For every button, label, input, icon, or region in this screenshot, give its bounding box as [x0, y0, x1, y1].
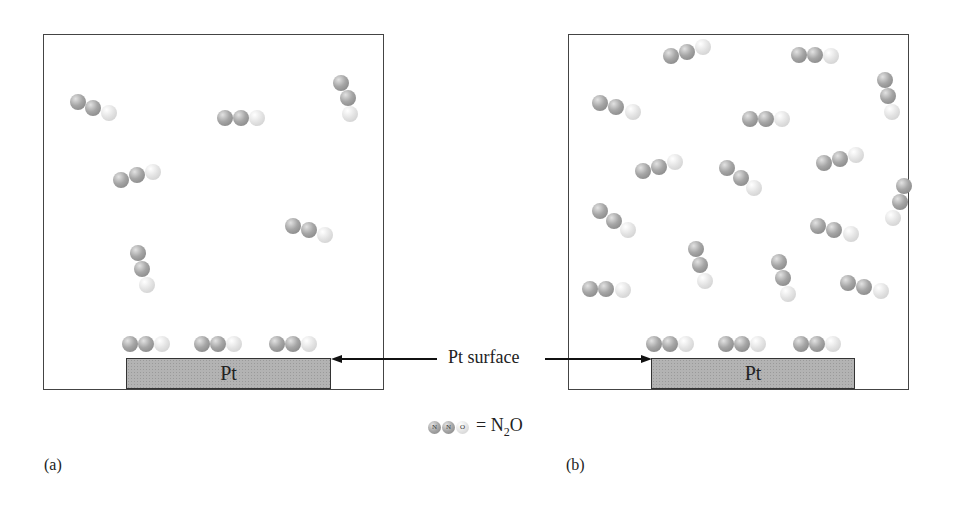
nitrogen-atom-icon	[775, 270, 791, 286]
nitrogen-atom-icon	[129, 167, 145, 183]
legend-oxygen-atom-icon: O	[456, 421, 469, 434]
nitrogen-atom-icon	[130, 245, 146, 261]
nitrogen-atom-icon	[582, 281, 598, 297]
nitrogen-atom-icon	[877, 72, 893, 88]
oxygen-atom-icon	[843, 226, 859, 242]
oxygen-atom-icon	[145, 164, 161, 180]
oxygen-atom-icon	[301, 336, 317, 352]
legend-equals: =	[476, 415, 486, 435]
nitrogen-atom-icon	[233, 110, 249, 126]
nitrogen-atom-icon	[598, 281, 614, 297]
nitrogen-atom-icon	[791, 47, 807, 63]
arrow-line-left	[340, 358, 437, 360]
oxygen-atom-icon	[101, 105, 117, 121]
nitrogen-atom-icon	[210, 336, 226, 352]
nitrogen-atom-icon	[340, 90, 356, 106]
nitrogen-atom-icon	[810, 218, 826, 234]
oxygen-atom-icon	[780, 286, 796, 302]
oxygen-atom-icon	[750, 336, 766, 352]
nitrogen-atom-icon	[285, 218, 301, 234]
oxygen-atom-icon	[667, 154, 683, 170]
legend-nitrogen-atom-icon: N	[442, 421, 455, 434]
nitrogen-atom-icon	[269, 336, 285, 352]
oxygen-atom-icon	[885, 210, 901, 226]
nitrogen-atom-icon	[663, 48, 679, 64]
legend-formula: = N2O	[476, 415, 523, 440]
formula-n: N	[491, 415, 504, 435]
nitrogen-atom-icon	[892, 194, 908, 210]
nitrogen-atom-icon	[194, 336, 210, 352]
nitrogen-atom-icon	[70, 94, 86, 110]
nitrogen-atom-icon	[816, 155, 832, 171]
nitrogen-atom-icon	[333, 75, 349, 91]
nitrogen-atom-icon	[635, 163, 651, 179]
nitrogen-atom-icon	[606, 213, 622, 229]
oxygen-atom-icon	[342, 106, 358, 122]
nitrogen-atom-icon	[742, 111, 758, 127]
nitrogen-atom-icon	[592, 95, 608, 111]
nitrogen-atom-icon	[662, 336, 678, 352]
oxygen-atom-icon	[249, 110, 265, 126]
oxygen-atom-icon	[774, 111, 790, 127]
nitrogen-atom-icon	[826, 222, 842, 238]
oxygen-atom-icon	[620, 222, 636, 238]
nitrogen-atom-icon	[285, 336, 301, 352]
nitrogen-atom-icon	[679, 44, 695, 60]
pt-label-a: Pt	[220, 362, 237, 385]
nitrogen-atom-icon	[651, 159, 667, 175]
nitrogen-atom-icon	[793, 336, 809, 352]
nitrogen-atom-icon	[880, 88, 896, 104]
oxygen-atom-icon	[139, 277, 155, 293]
nitrogen-atom-icon	[688, 241, 704, 257]
nitrogen-atom-icon	[771, 254, 787, 270]
nitrogen-atom-icon	[217, 110, 233, 126]
pt-surface-block-b: Pt	[651, 358, 855, 389]
oxygen-atom-icon	[825, 336, 841, 352]
nitrogen-atom-icon	[692, 257, 708, 273]
legend-nitrogen-atom-icon: N	[428, 421, 441, 434]
oxygen-atom-icon	[625, 104, 641, 120]
nitrogen-atom-icon	[896, 178, 912, 194]
pt-surface-callout-label: Pt surface	[448, 347, 519, 368]
nitrogen-atom-icon	[840, 275, 856, 291]
nitrogen-atom-icon	[856, 279, 872, 295]
nitrogen-atom-icon	[832, 151, 848, 167]
nitrogen-atom-icon	[138, 336, 154, 352]
oxygen-atom-icon	[697, 273, 713, 289]
oxygen-atom-icon	[823, 48, 839, 64]
nitrogen-atom-icon	[301, 222, 317, 238]
nitrogen-atom-icon	[734, 336, 750, 352]
nitrogen-atom-icon	[592, 203, 608, 219]
oxygen-atom-icon	[695, 39, 711, 55]
pt-label-b: Pt	[745, 362, 762, 385]
oxygen-atom-icon	[884, 104, 900, 120]
nitrogen-atom-icon	[113, 172, 129, 188]
pt-surface-block-a: Pt	[126, 358, 331, 389]
oxygen-atom-icon	[678, 336, 694, 352]
formula-o: O	[510, 415, 523, 435]
oxygen-atom-icon	[873, 283, 889, 299]
oxygen-atom-icon	[317, 227, 333, 243]
oxygen-atom-icon	[746, 180, 762, 196]
nitrogen-atom-icon	[85, 100, 101, 116]
nitrogen-atom-icon	[134, 261, 150, 277]
arrow-line-right	[545, 358, 642, 360]
legend: N N O = N2O	[428, 415, 523, 440]
caption-a: (a)	[44, 456, 62, 474]
nitrogen-atom-icon	[719, 160, 735, 176]
nitrogen-atom-icon	[807, 47, 823, 63]
arrowhead-right-icon	[641, 355, 652, 363]
oxygen-atom-icon	[154, 336, 170, 352]
nitrogen-atom-icon	[809, 336, 825, 352]
oxygen-atom-icon	[226, 336, 242, 352]
nitrogen-atom-icon	[646, 336, 662, 352]
oxygen-atom-icon	[615, 282, 631, 298]
nitrogen-atom-icon	[122, 336, 138, 352]
nitrogen-atom-icon	[733, 170, 749, 186]
nitrogen-atom-icon	[608, 99, 624, 115]
nitrogen-atom-icon	[758, 111, 774, 127]
oxygen-atom-icon	[848, 147, 864, 163]
nitrogen-atom-icon	[718, 336, 734, 352]
caption-b: (b)	[566, 456, 585, 474]
